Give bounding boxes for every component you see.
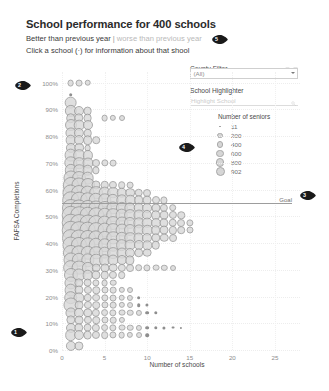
data-point[interactable] xyxy=(110,302,117,309)
data-point[interactable] xyxy=(101,115,108,122)
annotation-pin: 3 xyxy=(299,190,316,201)
data-point[interactable] xyxy=(110,279,117,286)
data-point[interactable] xyxy=(146,303,149,306)
data-point[interactable] xyxy=(83,331,92,340)
data-point[interactable] xyxy=(143,248,152,257)
data-point[interactable] xyxy=(110,159,117,166)
data-point[interactable] xyxy=(118,324,125,331)
data-point[interactable] xyxy=(127,295,133,301)
data-point[interactable] xyxy=(127,324,134,331)
x-axis-tick: 5 xyxy=(103,354,106,361)
y-axis-tick: 90% xyxy=(46,106,58,113)
data-point[interactable] xyxy=(84,79,91,86)
data-point[interactable] xyxy=(127,302,133,308)
data-point[interactable] xyxy=(118,332,125,339)
data-point[interactable] xyxy=(152,264,159,271)
goal-reference-line xyxy=(62,203,292,204)
annotation-pin-number: 1 xyxy=(14,330,17,335)
data-point[interactable] xyxy=(92,159,100,167)
dashboard-root: School performance for 400 schools Bette… xyxy=(0,0,329,391)
data-point[interactable] xyxy=(101,159,108,166)
y-axis-tick: 20% xyxy=(46,293,58,300)
data-point[interactable] xyxy=(109,324,116,331)
data-point[interactable] xyxy=(137,296,141,300)
x-axis-tick: 15 xyxy=(186,354,193,361)
data-point[interactable] xyxy=(160,233,169,242)
bubble-chart: FAFSA Completions Number of schools 0%10… xyxy=(38,72,292,350)
data-point[interactable] xyxy=(126,264,134,272)
data-point[interactable] xyxy=(118,294,125,301)
data-point[interactable] xyxy=(76,79,83,86)
data-point[interactable] xyxy=(186,227,193,234)
data-point[interactable] xyxy=(170,265,176,271)
data-point[interactable] xyxy=(109,271,117,279)
data-point[interactable] xyxy=(92,137,100,145)
y-gridline xyxy=(62,350,300,351)
data-point[interactable] xyxy=(163,326,166,329)
data-point[interactable] xyxy=(92,331,100,339)
data-point[interactable] xyxy=(171,326,174,329)
annotation-pin-number: 5 xyxy=(215,37,218,42)
data-point[interactable] xyxy=(169,234,177,242)
annotation-pin: 4 xyxy=(178,142,195,153)
data-point[interactable] xyxy=(109,309,116,316)
x-axis-tick: 20 xyxy=(229,354,236,361)
data-point[interactable] xyxy=(127,287,133,293)
data-point[interactable] xyxy=(177,226,185,234)
y-axis-tick: 0% xyxy=(49,347,58,354)
data-point[interactable] xyxy=(101,279,108,286)
plot-area[interactable]: Number of schools 0%10%20%30%40%50%60%70… xyxy=(62,72,292,350)
data-point[interactable] xyxy=(154,326,157,329)
data-point[interactable] xyxy=(101,294,108,301)
data-point[interactable] xyxy=(145,311,149,315)
data-point[interactable] xyxy=(100,271,109,280)
x-axis-tick: 0 xyxy=(60,354,63,361)
county-filter-icons xyxy=(285,58,298,63)
data-point[interactable] xyxy=(136,309,142,315)
data-point[interactable] xyxy=(186,219,193,226)
data-point[interactable] xyxy=(154,311,157,314)
data-point[interactable] xyxy=(118,287,124,293)
data-point[interactable] xyxy=(136,324,142,330)
data-point[interactable] xyxy=(101,302,108,309)
data-point[interactable] xyxy=(145,326,149,330)
data-point[interactable] xyxy=(110,331,117,338)
data-point[interactable] xyxy=(110,287,117,294)
x-axis-tick: 25 xyxy=(272,354,279,361)
more-options-icon[interactable] xyxy=(293,58,298,63)
subtitle-better-label: Better than previous year xyxy=(26,34,111,43)
data-point[interactable] xyxy=(110,294,117,301)
y-axis-tick: 30% xyxy=(46,266,58,273)
data-point[interactable] xyxy=(92,279,99,286)
page-title: School performance for 400 schools xyxy=(26,18,266,31)
data-point[interactable] xyxy=(118,302,124,308)
data-point[interactable] xyxy=(136,332,142,338)
data-point[interactable] xyxy=(135,264,143,272)
data-point[interactable] xyxy=(101,287,108,294)
funnel-icon[interactable] xyxy=(285,58,290,63)
goal-label: Goal xyxy=(279,197,293,203)
data-point[interactable] xyxy=(101,309,109,317)
y-axis-tick: 50% xyxy=(46,213,58,220)
annotation-pin: 5 xyxy=(211,34,228,45)
y-axis-tick: 10% xyxy=(46,320,58,327)
y-axis-tick: 60% xyxy=(46,186,58,193)
data-point[interactable] xyxy=(92,167,99,174)
data-point[interactable] xyxy=(67,79,74,86)
header: School performance for 400 schools Bette… xyxy=(26,18,266,56)
data-point[interactable] xyxy=(119,115,125,121)
county-filter-label-row: County Filter xyxy=(190,57,298,66)
data-point[interactable] xyxy=(118,309,125,316)
data-point[interactable] xyxy=(127,309,134,316)
data-point[interactable] xyxy=(127,332,133,338)
x-axis-tick: 10 xyxy=(144,354,151,361)
data-point[interactable] xyxy=(110,317,117,324)
data-point[interactable] xyxy=(101,331,109,339)
data-point[interactable] xyxy=(118,271,126,279)
data-point[interactable] xyxy=(119,317,125,323)
data-point[interactable] xyxy=(151,241,160,250)
data-point[interactable] xyxy=(145,333,149,337)
data-point[interactable] xyxy=(180,326,182,328)
data-point[interactable] xyxy=(110,115,116,121)
data-point[interactable] xyxy=(137,303,141,307)
